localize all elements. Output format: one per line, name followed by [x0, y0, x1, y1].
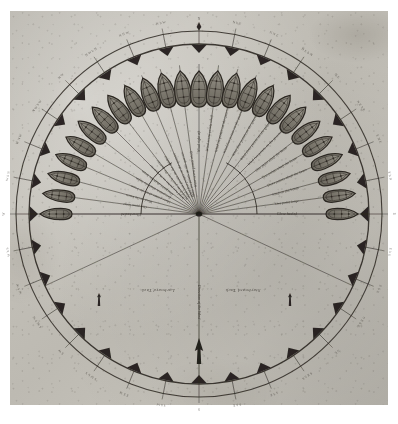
compass-rim-tick [378, 177, 384, 178]
compass-tick [340, 308, 351, 315]
compass-rim-tick [65, 80, 69, 84]
north-fleur-icon [197, 22, 202, 31]
wind-direction-triangle [287, 69, 300, 80]
compass-tick [293, 62, 300, 73]
ship-hull [46, 168, 81, 188]
compass-rim-tick [328, 343, 332, 347]
compass-tick [47, 112, 58, 119]
compass-tick [20, 178, 33, 181]
compass-rim-tick [127, 39, 129, 45]
ship-hull [42, 188, 76, 204]
wind-direction-triangle [287, 348, 300, 359]
compass-rim-tick [42, 316, 47, 319]
starboard-tack-marker [288, 293, 292, 306]
wind-arrow [195, 338, 203, 364]
compass-rim-label: E b S [387, 248, 393, 257]
compass-rim-tick [42, 109, 47, 112]
hull-mast [198, 97, 200, 99]
compass-tick [30, 144, 42, 149]
compass-tick [264, 45, 269, 57]
compass-rim-tick [368, 142, 374, 144]
compass-tick [366, 178, 379, 181]
compass-rim-label: E b N [387, 171, 393, 181]
larboard-hub-arc [141, 163, 172, 214]
wind-direction-triangle [54, 114, 65, 127]
compass-tick [340, 112, 351, 119]
compass-rim-tick [235, 29, 236, 35]
compass-tick [366, 247, 379, 250]
compass-rim-tick [301, 57, 304, 62]
compass-rim-label: W [2, 212, 6, 215]
compass-tick [356, 279, 368, 284]
wind-direction-triangle [191, 45, 206, 53]
ship-hull [191, 71, 208, 107]
tack-marker-arrow-icon [97, 293, 101, 306]
compass-rim-tick [24, 142, 30, 144]
compass-rim-tick [328, 80, 332, 84]
compass-rim-tick [269, 39, 271, 45]
wind-direction-triangle [99, 348, 112, 359]
compass-rim-tick [94, 366, 97, 371]
compass-rim-tick [235, 393, 236, 399]
compass-tick [232, 381, 235, 394]
hull-mast [348, 213, 350, 215]
compass-tick [97, 355, 104, 366]
compass-tick [70, 334, 79, 343]
compass-tick [129, 45, 134, 57]
hull-mast [48, 213, 50, 215]
hull-mast [341, 213, 343, 215]
compass-rim-tick [14, 177, 20, 178]
compass-rim-tick [127, 383, 129, 389]
larboard-tack-marker [97, 293, 101, 306]
hull-mast [198, 81, 200, 83]
compass-rim-tick [301, 366, 304, 371]
compass-tick [20, 247, 33, 250]
engraving-plate [10, 11, 388, 405]
compass-rim-tick [94, 57, 97, 62]
compass-rim-tick [351, 316, 356, 319]
compass-rim-label: E [392, 213, 396, 215]
wind-direction-triangle [333, 114, 344, 127]
compass-tick [293, 355, 300, 366]
compass-rim-tick [351, 109, 356, 112]
ship-hull [322, 188, 356, 204]
hull-mast [198, 88, 200, 90]
compass-rim-tick [162, 29, 163, 35]
compass-rim-label: S [198, 407, 200, 411]
hull-mast [55, 213, 57, 215]
wind-direction-triangle [99, 69, 112, 80]
hull-mast [63, 213, 65, 215]
starboard-hub-arc [226, 163, 257, 214]
compass-tick [97, 62, 104, 73]
compass-tick [319, 334, 328, 343]
compass-tick [70, 85, 79, 94]
ship-hull [326, 208, 358, 219]
compass-tick [47, 308, 58, 315]
ship-hull [40, 208, 72, 219]
compass-rim-tick [162, 393, 163, 399]
compass-rim-tick [269, 383, 271, 389]
compass-tick [232, 35, 235, 48]
compass-tick [356, 144, 368, 149]
ship-hull [317, 168, 352, 188]
compass-rim-tick [65, 343, 69, 347]
wind-direction-triangle [333, 302, 344, 315]
compass-rim-tick [14, 250, 20, 251]
compass-tick [264, 371, 269, 383]
nautical-sailing-diagram [10, 11, 388, 405]
tack-marker-arrow-icon [288, 293, 292, 306]
compass-tick [163, 381, 166, 394]
starboard-chord [199, 214, 353, 286]
compass-tick [163, 35, 166, 48]
compass-rim-tick [24, 284, 30, 286]
compass-tick [319, 85, 328, 94]
compass-rim-tick [378, 250, 384, 251]
larboard-chord [45, 214, 199, 286]
compass-tick [129, 371, 134, 383]
hull-mast [333, 213, 335, 215]
compass-tick [30, 279, 42, 284]
compass-rim-tick [368, 284, 374, 286]
wind-direction-triangle [54, 302, 65, 315]
